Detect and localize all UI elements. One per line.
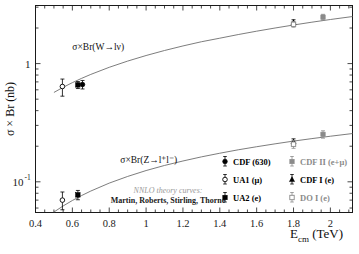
x-tick-label: 0.6 [66, 218, 79, 229]
curve-annotation-0: σ×Br(W→lν) [72, 42, 124, 53]
datapoint-UA1-----W [60, 84, 65, 89]
legend-label-UA2--e-[interactable]: UA2 (e) [233, 193, 261, 203]
figure-root: 0.40.60.811.21.41.61.82110-1σ × Br (nb)E… [0, 0, 359, 254]
y-tick-label-10: 10 [13, 176, 25, 188]
datapoint-UA2--e--Z [76, 193, 80, 197]
legend-marker-DO-I--e- [290, 195, 294, 199]
datapoint-CDF-II--e----Z [321, 132, 325, 136]
datapoint-UA2--e--W [76, 83, 80, 87]
y-tick-label-exponent: -1 [25, 173, 31, 182]
legend-label-UA1----[interactable]: UA1 (μ) [233, 175, 262, 185]
legend-marker-CDF-I--e- [289, 177, 294, 182]
x-tick-label: 1.4 [213, 218, 227, 229]
x-tick-label: 0.4 [29, 218, 43, 229]
legend-label-CDF--630-[interactable]: CDF (630) [233, 157, 271, 167]
legend-marker-CDF-II--e--- [290, 159, 294, 163]
curve-annotation-1: σ×Br(Z→l⁺l⁻) [120, 155, 177, 166]
x-axis-title: Ecm (TeV) [290, 226, 343, 244]
x-tick-label: 1.2 [176, 218, 189, 229]
y-axis-title: σ × Br (nb) [3, 82, 17, 136]
legend-label-DO-I--e-[interactable]: DO I (e) [300, 193, 330, 203]
datapoint-CDF-II--e----W [321, 15, 325, 19]
theory-curve-W_theory [54, 17, 353, 93]
cross-section-plot: 0.40.60.811.21.41.61.82110-1σ × Br (nb)E… [0, 0, 359, 254]
datapoint-D0-I--e--Z [291, 142, 295, 146]
datapoint-UA1-----Z [60, 198, 65, 203]
theory-note-authors: Martin, Roberts, Stirling, Thorne [111, 196, 226, 205]
legend-marker-UA1---- [223, 177, 228, 182]
y-tick-label-1: 1 [25, 58, 31, 70]
legend-label-CDF-II--e---[interactable]: CDF II (e+μ) [300, 157, 347, 167]
x-tick-label: 1.6 [250, 218, 263, 229]
legend-marker-CDF--630- [223, 159, 228, 164]
datapoint-CDF--630--W [80, 82, 85, 87]
legend-label-CDF-I--e-[interactable]: CDF I (e) [300, 175, 334, 185]
x-tick-label: 1 [143, 218, 148, 229]
x-tick-label: 0.8 [103, 218, 116, 229]
legend-marker-UA2--e- [223, 195, 227, 199]
datapoint-D0-I--e--W [291, 22, 295, 26]
theory-note-heading: NNLO theory curves: [133, 186, 203, 195]
